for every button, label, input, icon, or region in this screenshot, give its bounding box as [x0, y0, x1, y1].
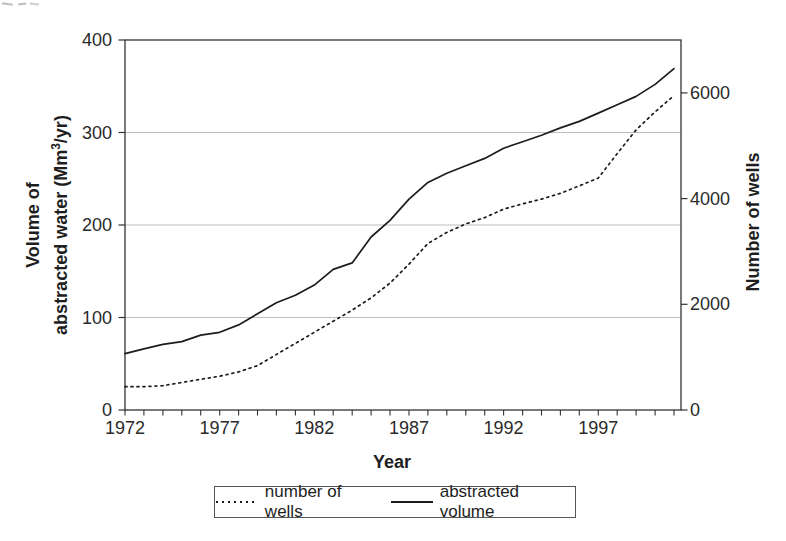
chart-figure: 0100200300400020004000600019721977198219… [0, 0, 786, 541]
right-axis-title: Number of wells [742, 62, 764, 382]
dotted-line-sample-icon [215, 499, 258, 505]
left-axis-title-line2: abstracted water (Mm3/yr) [45, 65, 73, 385]
left-axis-title-line1: Volume of [22, 65, 45, 385]
legend-item-volume: abstracted volume [390, 482, 575, 522]
superscript-3: 3 [49, 143, 63, 150]
legend-item-wells: number of wells [215, 482, 381, 522]
x-axis-title: Year [322, 452, 462, 473]
legend-label-wells: number of wells [265, 482, 381, 522]
left-axis-title: Volume of abstracted water (Mm3/yr) [22, 65, 68, 385]
solid-line-sample-icon [390, 499, 433, 505]
chart-legend: number of wells abstracted volume [214, 486, 576, 518]
legend-label-volume: abstracted volume [440, 482, 575, 522]
